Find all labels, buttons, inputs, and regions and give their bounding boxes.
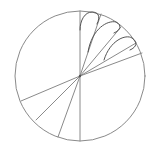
radial-lines — [21, 11, 142, 141]
diagram-canvas — [0, 0, 158, 149]
center-point — [79, 75, 81, 77]
circle-diagram — [0, 0, 158, 149]
radial-line — [21, 76, 80, 101]
radial-line — [58, 76, 80, 137]
radial-line — [36, 76, 80, 120]
inscribed-arcs — [80, 12, 136, 60]
